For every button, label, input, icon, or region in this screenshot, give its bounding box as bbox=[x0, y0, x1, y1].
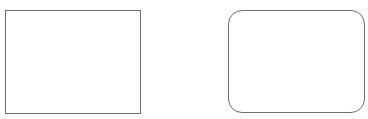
rectangle-shape[interactable] bbox=[5, 10, 141, 114]
rounded-rectangle-shape[interactable] bbox=[228, 10, 365, 113]
